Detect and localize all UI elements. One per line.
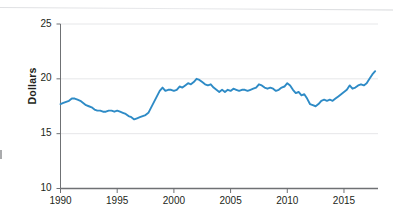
chart-figure: Dollars 10152025199019952000200520102015 xyxy=(0,0,393,218)
x-tick-label-2005: 2005 xyxy=(214,195,248,206)
x-tick-label-2010: 2010 xyxy=(270,195,304,206)
x-tick-label-1995: 1995 xyxy=(100,195,134,206)
x-tick-label-1990: 1990 xyxy=(44,195,78,206)
line-chart-plot xyxy=(0,0,393,218)
x-tick-label-2015: 2015 xyxy=(327,195,361,206)
y-tick-label-15: 15 xyxy=(34,127,52,138)
y-tick-label-25: 25 xyxy=(34,18,52,29)
y-tick-label-20: 20 xyxy=(34,72,52,83)
x-tick-label-2000: 2000 xyxy=(157,195,191,206)
y-tick-label-10: 10 xyxy=(34,182,52,193)
